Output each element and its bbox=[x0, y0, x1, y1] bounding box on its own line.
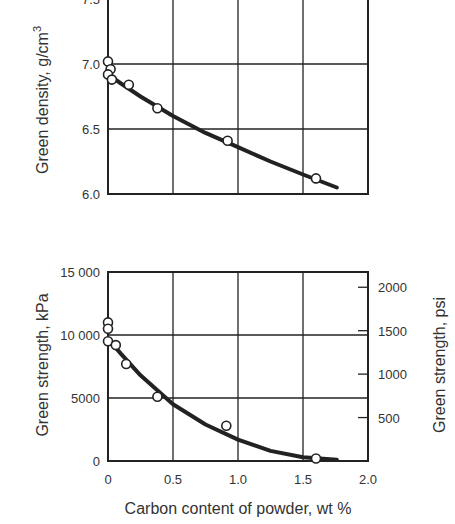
strength-y-ticks-psi: 200015001000500 bbox=[358, 280, 407, 425]
x-tick-label: 1.0 bbox=[229, 472, 247, 487]
strength-chart: 15 00010 00050000 200015001000500 00.51.… bbox=[34, 265, 448, 517]
strength-y-ticks-kpa: 15 00010 00050000 bbox=[60, 265, 100, 469]
density-y-axis-label: Green density, g/cm3 bbox=[31, 26, 51, 174]
y-tick-label: 10 000 bbox=[60, 328, 100, 343]
strength-grid bbox=[108, 272, 368, 461]
data-point-marker bbox=[107, 75, 116, 84]
data-point-marker bbox=[223, 136, 232, 145]
y-tick-label: 0 bbox=[93, 454, 100, 469]
x-tick-label: 1.5 bbox=[294, 472, 312, 487]
y-tick-label: 7.5 bbox=[82, 0, 100, 7]
y-tick-label: 7.0 bbox=[82, 57, 100, 72]
density-data-points bbox=[104, 57, 321, 183]
y-tick-label: 5000 bbox=[71, 391, 100, 406]
x-tick-label: 0.5 bbox=[164, 472, 182, 487]
data-point-marker bbox=[122, 359, 131, 368]
strength-y-axis-label-kpa: Green strength, kPa bbox=[34, 293, 51, 436]
y-tick-label: 6.5 bbox=[82, 122, 100, 137]
y-tick-label: 6.0 bbox=[82, 187, 100, 202]
density-chart: 7.57.06.56.0 Green density, g/cm3 bbox=[31, 0, 368, 202]
data-point-marker bbox=[312, 174, 321, 183]
x-ticks: 00.51.01.52.0 bbox=[104, 472, 377, 487]
y-tick-label-right: 2000 bbox=[378, 280, 407, 295]
data-point-marker bbox=[104, 324, 113, 333]
x-axis-label: Carbon content of powder, wt % bbox=[125, 500, 352, 517]
y-tick-label-right: 1500 bbox=[378, 324, 407, 339]
data-point-marker bbox=[111, 341, 120, 350]
y-tick-label-right: 1000 bbox=[378, 367, 407, 382]
data-point-marker bbox=[312, 454, 321, 463]
density-grid bbox=[108, 0, 368, 194]
data-point-marker bbox=[153, 104, 162, 113]
density-y-ticks: 7.57.06.56.0 bbox=[82, 0, 100, 202]
x-tick-label: 2.0 bbox=[359, 472, 377, 487]
y-tick-label: 15 000 bbox=[60, 265, 100, 280]
data-point-marker bbox=[153, 392, 162, 401]
x-tick-label: 0 bbox=[104, 472, 111, 487]
data-point-marker bbox=[222, 421, 231, 430]
data-point-marker bbox=[124, 80, 133, 89]
strength-data-points bbox=[104, 318, 321, 463]
y-tick-label-right: 500 bbox=[378, 411, 400, 426]
chart-figure: 7.57.06.56.0 Green density, g/cm3 15 000… bbox=[0, 0, 455, 524]
strength-y-axis-label-psi: Green strength, psi bbox=[431, 297, 448, 433]
